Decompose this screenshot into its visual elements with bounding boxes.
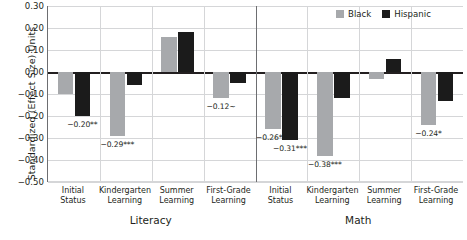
- x-category-label-line: Kindergarten: [306, 186, 358, 196]
- bar-value-label: −0.24*: [415, 129, 441, 138]
- bar-value-label: −0.38***: [308, 160, 342, 169]
- bar-value-label: −0.31***: [273, 144, 307, 153]
- x-category-label-line: Initial: [255, 186, 307, 196]
- x-category-label-line: Learning: [99, 196, 151, 206]
- category-separator: [204, 6, 205, 182]
- chart-container: Standardized (Effect Size) Units 0.300.2…: [0, 0, 467, 240]
- bar-math-summer-learning-black: [369, 72, 385, 79]
- bar-literacy-first-grade-learning-hispanic: [230, 72, 246, 83]
- y-tick-label: 0.00: [10, 68, 44, 77]
- panel-title-math: Math: [255, 214, 463, 226]
- category-separator: [100, 6, 101, 182]
- bar-literacy-summer-learning-black: [161, 37, 177, 72]
- gridline: [48, 182, 463, 183]
- x-category-label: InitialStatus: [47, 186, 99, 205]
- x-category-label-line: Learning: [203, 196, 255, 206]
- bar-literacy-initial-status-black: [58, 72, 74, 94]
- x-category-label-line: Status: [255, 196, 307, 206]
- bar-literacy-kindergarten-learning-hispanic: [127, 72, 143, 85]
- category-separator: [307, 6, 308, 182]
- x-category-label-line: Learning: [306, 196, 358, 206]
- x-category-label: SummerLearning: [358, 186, 410, 205]
- y-axis-tick-labels: 0.300.200.100.00−0.10−0.20−0.30−0.40−0.5…: [0, 0, 44, 200]
- legend-swatch-icon: [382, 10, 390, 18]
- x-category-label-line: Status: [47, 196, 99, 206]
- legend-swatch-icon: [336, 10, 344, 18]
- legend: BlackHispanic: [336, 9, 431, 19]
- y-tick-label: −0.50: [10, 178, 44, 187]
- x-category-label: InitialStatus: [255, 186, 307, 205]
- panel-divider: [256, 6, 257, 182]
- bar-literacy-kindergarten-learning-black: [110, 72, 126, 136]
- bar-math-first-grade-learning-black: [421, 72, 437, 125]
- x-category-label: KindergartenLearning: [99, 186, 151, 205]
- x-category-label-line: First-Grade: [410, 186, 462, 196]
- y-tick-label: −0.10: [10, 90, 44, 99]
- y-tick-label: −0.30: [10, 134, 44, 143]
- category-separator: [411, 6, 412, 182]
- bar-literacy-initial-status-hispanic: [75, 72, 91, 116]
- bar-literacy-summer-learning-hispanic: [178, 32, 194, 72]
- bar-math-initial-status-black: [265, 72, 281, 129]
- category-separator: [359, 6, 360, 182]
- bar-value-label: −0.29***: [100, 140, 134, 149]
- x-category-label-line: Kindergarten: [99, 186, 151, 196]
- x-category-label-line: Initial: [47, 186, 99, 196]
- bar-value-label: −0.20**: [67, 120, 97, 129]
- x-category-label-line: Learning: [410, 196, 462, 206]
- x-category-label: SummerLearning: [151, 186, 203, 205]
- x-category-label-line: Learning: [358, 196, 410, 206]
- legend-label: Black: [348, 9, 371, 19]
- x-category-label: First-GradeLearning: [203, 186, 255, 205]
- bar-literacy-first-grade-learning-black: [213, 72, 229, 98]
- bar-math-summer-learning-hispanic: [386, 59, 402, 72]
- plot-area: −0.20**−0.29***−0.12~−0.26***−0.31***−0.…: [47, 6, 463, 182]
- x-category-label: KindergartenLearning: [306, 186, 358, 205]
- x-category-label: First-GradeLearning: [410, 186, 462, 205]
- category-separator: [152, 6, 153, 182]
- x-category-label-line: Summer: [151, 186, 203, 196]
- legend-item-hispanic: Hispanic: [382, 9, 431, 19]
- legend-label: Hispanic: [394, 9, 431, 19]
- bar-math-kindergarten-learning-black: [317, 72, 333, 156]
- panel-title-literacy: Literacy: [47, 214, 255, 226]
- bar-math-kindergarten-learning-hispanic: [334, 72, 350, 98]
- y-tick-label: 0.20: [10, 24, 44, 33]
- bar-value-label: −0.12~: [207, 102, 236, 111]
- y-tick-label: 0.10: [10, 46, 44, 55]
- bar-math-first-grade-learning-hispanic: [438, 72, 454, 101]
- y-tick-label: 0.30: [10, 2, 44, 11]
- x-category-label-line: Learning: [151, 196, 203, 206]
- y-tick-label: −0.40: [10, 156, 44, 165]
- x-category-label-line: First-Grade: [203, 186, 255, 196]
- y-tick-label: −0.20: [10, 112, 44, 121]
- bar-math-initial-status-hispanic: [282, 72, 298, 140]
- legend-item-black: Black: [336, 9, 371, 19]
- x-category-label-line: Summer: [358, 186, 410, 196]
